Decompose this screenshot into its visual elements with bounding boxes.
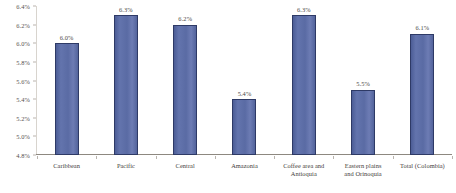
x-axis-category-line: Total (Colombia) (393, 162, 452, 170)
bar-value-label: 5.4% (238, 90, 252, 97)
bar[interactable] (351, 90, 375, 155)
bar-group: 5.5% (333, 6, 392, 155)
x-axis-tick-mark (96, 156, 97, 159)
y-axis-tick-label: 5.4% (16, 96, 30, 103)
x-axis-category-label: Pacific (96, 162, 155, 170)
plot-area: 6.0%6.3%6.2%5.4%6.3%5.5%6.1% (37, 6, 452, 155)
x-axis-tick-mark (333, 156, 334, 159)
x-axis-tick-mark (156, 156, 157, 159)
x-axis: CaribbeanPacificCentralAmazoniaCoffee ar… (37, 156, 452, 193)
x-axis-tick-mark (274, 156, 275, 159)
x-axis-tick-mark (393, 156, 394, 159)
x-axis-category-line: and Orinoquia (333, 170, 392, 178)
bar[interactable] (410, 34, 434, 155)
x-axis-category-line: Amazonia (215, 162, 274, 170)
y-axis-tick-label: 5.8% (16, 58, 30, 65)
x-axis-category-line: Central (156, 162, 215, 170)
x-axis-category-label: Caribbean (37, 162, 96, 170)
bar-chart: 6.4%6.2%6.0%5.8%5.6%5.4%5.2%5.0%4.8% 6.0… (0, 0, 456, 193)
bar-group: 5.4% (215, 6, 274, 155)
bar-group: 6.0% (37, 6, 96, 155)
y-axis: 6.4%6.2%6.0%5.8%5.6%5.4%5.2%5.0%4.8% (0, 0, 34, 155)
bar-value-label: 6.0% (60, 34, 74, 41)
bar[interactable] (114, 15, 138, 155)
x-axis-category-line: Coffee area and (274, 162, 333, 170)
y-axis-tick-label: 4.8% (16, 152, 30, 159)
y-axis-tick-label: 5.6% (16, 77, 30, 84)
y-axis-tick-label: 5.2% (16, 114, 30, 121)
x-axis-category-line: Caribbean (37, 162, 96, 170)
x-axis-category-line: Eastern plains (333, 162, 392, 170)
x-axis-category-label: Amazonia (215, 162, 274, 170)
bar[interactable] (55, 43, 79, 155)
bar-group: 6.2% (156, 6, 215, 155)
bar-value-label: 6.3% (119, 6, 133, 13)
x-axis-tick-mark (215, 156, 216, 159)
x-axis-tick-mark (452, 156, 453, 159)
bar-group: 6.3% (274, 6, 333, 155)
x-axis-category-label: Total (Colombia) (393, 162, 452, 170)
x-axis-category-line: Pacific (96, 162, 155, 170)
bar-value-label: 6.2% (178, 15, 192, 22)
bar[interactable] (173, 25, 197, 155)
x-axis-tick-mark (37, 156, 38, 159)
x-axis-category-label: Eastern plainsand Orinoquia (333, 162, 392, 178)
bar[interactable] (292, 15, 316, 155)
x-axis-category-label: Coffee area andAntioquia (274, 162, 333, 178)
y-axis-tick-label: 5.0% (16, 133, 30, 140)
bar-value-label: 5.5% (356, 80, 370, 87)
y-axis-tick-label: 6.0% (16, 40, 30, 47)
x-axis-category-line: Antioquia (274, 170, 333, 178)
bar-value-label: 6.1% (415, 24, 429, 31)
y-axis-tick-label: 6.2% (16, 21, 30, 28)
x-axis-category-label: Central (156, 162, 215, 170)
bar-value-label: 6.3% (297, 6, 311, 13)
bar[interactable] (232, 99, 256, 155)
y-axis-tick-label: 6.4% (16, 3, 30, 10)
bar-group: 6.3% (96, 6, 155, 155)
bar-group: 6.1% (393, 6, 452, 155)
